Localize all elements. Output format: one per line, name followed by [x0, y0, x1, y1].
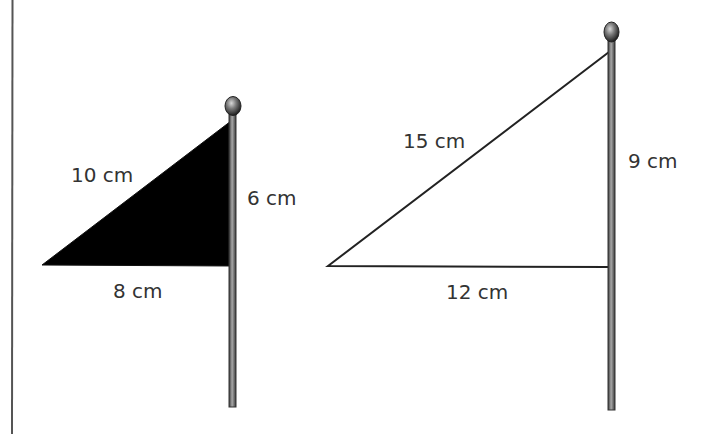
flag-small-triangle [42, 121, 231, 266]
flag-large-base-label: 12 cm [446, 280, 508, 304]
left-border-line [12, 0, 13, 434]
flag-small-pole [229, 112, 236, 407]
flag-small-knob-icon [225, 97, 241, 116]
flag-small-vertical-label: 6 cm [247, 186, 297, 210]
flag-large-vertical-label: 9 cm [628, 149, 678, 173]
flag-small [42, 97, 241, 408]
flag-large-triangle [328, 52, 609, 267]
flag-small-base-label: 8 cm [113, 279, 163, 303]
flag-large-knob-icon [604, 22, 619, 42]
flag-small-hypotenuse-label: 10 cm [71, 163, 133, 187]
flag-large-hypotenuse-label: 15 cm [403, 129, 465, 153]
flags-diagram [0, 0, 711, 434]
flag-large-pole [608, 40, 615, 410]
flag-large [328, 22, 619, 410]
